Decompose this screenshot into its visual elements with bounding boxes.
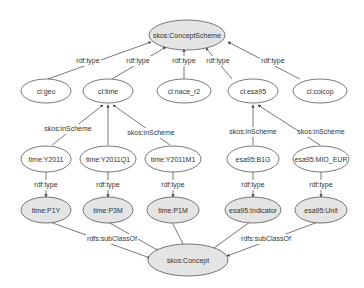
node-time-y2011q1[interactable]: time:Y2011Q1 — [80, 146, 136, 172]
svg-text:time:P3M: time:P3M — [93, 207, 123, 214]
svg-text:time:P1Y: time:P1Y — [32, 207, 61, 214]
svg-text:cl:nace_r2: cl:nace_r2 — [168, 88, 200, 96]
edge-label-left-subclass: rdfs:subClassOf — [87, 235, 137, 242]
edge-label-b1g-inscheme: skos:inScheme — [229, 128, 277, 135]
svg-text:esa95:Indicator: esa95:Indicator — [229, 207, 278, 214]
node-cl-nace-r2[interactable]: cl:nace_r2 — [157, 79, 211, 103]
edge-label-coicop-type: rdf:type — [261, 57, 284, 65]
node-time-y2011[interactable]: time:Y2011 — [21, 146, 71, 172]
edge-label-y2011-inscheme: skos:inScheme — [44, 125, 92, 132]
svg-text:time:Y2011: time:Y2011 — [29, 156, 64, 163]
edge-label-y2011q1-type: rdf:type — [96, 181, 119, 189]
svg-text:cl:coicop: cl:coicop — [306, 88, 333, 96]
node-cl-coicop[interactable]: cl:coicop — [293, 79, 347, 103]
edge-label-y2011m1-inscheme: skos:inScheme — [127, 129, 175, 136]
node-time-p3m[interactable]: time:P3M — [83, 197, 133, 223]
svg-text:time:Y2011M1: time:Y2011M1 — [151, 156, 196, 163]
edge-label-y2011-type: rdf:type — [34, 181, 57, 189]
edge-label-y2011m1-type: rdf:type — [161, 181, 184, 189]
node-esa95-indicator[interactable]: esa95:Indicator — [225, 197, 281, 223]
svg-text:skos:Concept: skos:Concept — [167, 257, 209, 265]
svg-text:esa95:MIO_EUR: esa95:MIO_EUR — [295, 156, 348, 164]
node-esa95-b1g[interactable]: esa95:B1G — [227, 146, 279, 172]
svg-text:cl:esa95: cl:esa95 — [240, 88, 266, 95]
edge-label-esa95-type: rdf:type — [206, 57, 229, 65]
node-cl-esa95[interactable]: cl:esa95 — [228, 79, 278, 103]
svg-text:skos:ConceptScheme: skos:ConceptScheme — [153, 32, 221, 40]
node-esa95-unit[interactable]: esa95:Unit — [295, 197, 347, 223]
svg-text:esa95:Unit: esa95:Unit — [304, 207, 338, 214]
node-cl-time[interactable]: cl:time — [83, 79, 133, 103]
node-time-p1m[interactable]: time:P1M — [147, 197, 199, 223]
svg-text:cl:geo: cl:geo — [37, 88, 56, 96]
rdf-graph-diagram: rdf:type rdf:type rdf:type rdf:type rdf:… — [0, 0, 364, 288]
node-time-y2011m1[interactable]: time:Y2011M1 — [145, 146, 201, 172]
edge-mio-inscheme — [258, 105, 320, 145]
node-esa95-mio-eur[interactable]: esa95:MIO_EUR — [293, 146, 349, 172]
edge-y2011m1-inscheme — [113, 105, 170, 145]
svg-text:time:P1M: time:P1M — [158, 207, 188, 214]
edge-label-mio-type: rdf:type — [309, 181, 332, 189]
edge-label-right-subclass: rdfs:subClassOf — [241, 235, 291, 242]
svg-text:time:Y2011Q1: time:Y2011Q1 — [86, 156, 130, 164]
edge-label-geo-type: rdf:type — [76, 57, 99, 65]
svg-text:cl:time: cl:time — [98, 88, 118, 95]
edge-label-mio-inscheme: skos:inScheme — [297, 128, 345, 135]
node-cl-geo[interactable]: cl:geo — [21, 79, 71, 103]
node-skos-concept[interactable]: skos:Concept — [148, 244, 228, 276]
svg-text:esa95:B1G: esa95:B1G — [235, 156, 270, 163]
edge-label-nace-type: rdf:type — [172, 57, 195, 65]
node-concept-scheme[interactable]: skos:ConceptScheme — [149, 20, 225, 50]
node-time-p1y[interactable]: time:P1Y — [21, 197, 71, 223]
edge-label-time-type: rdf:type — [126, 57, 149, 65]
edge-label-b1g-type: rdf:type — [241, 181, 264, 189]
